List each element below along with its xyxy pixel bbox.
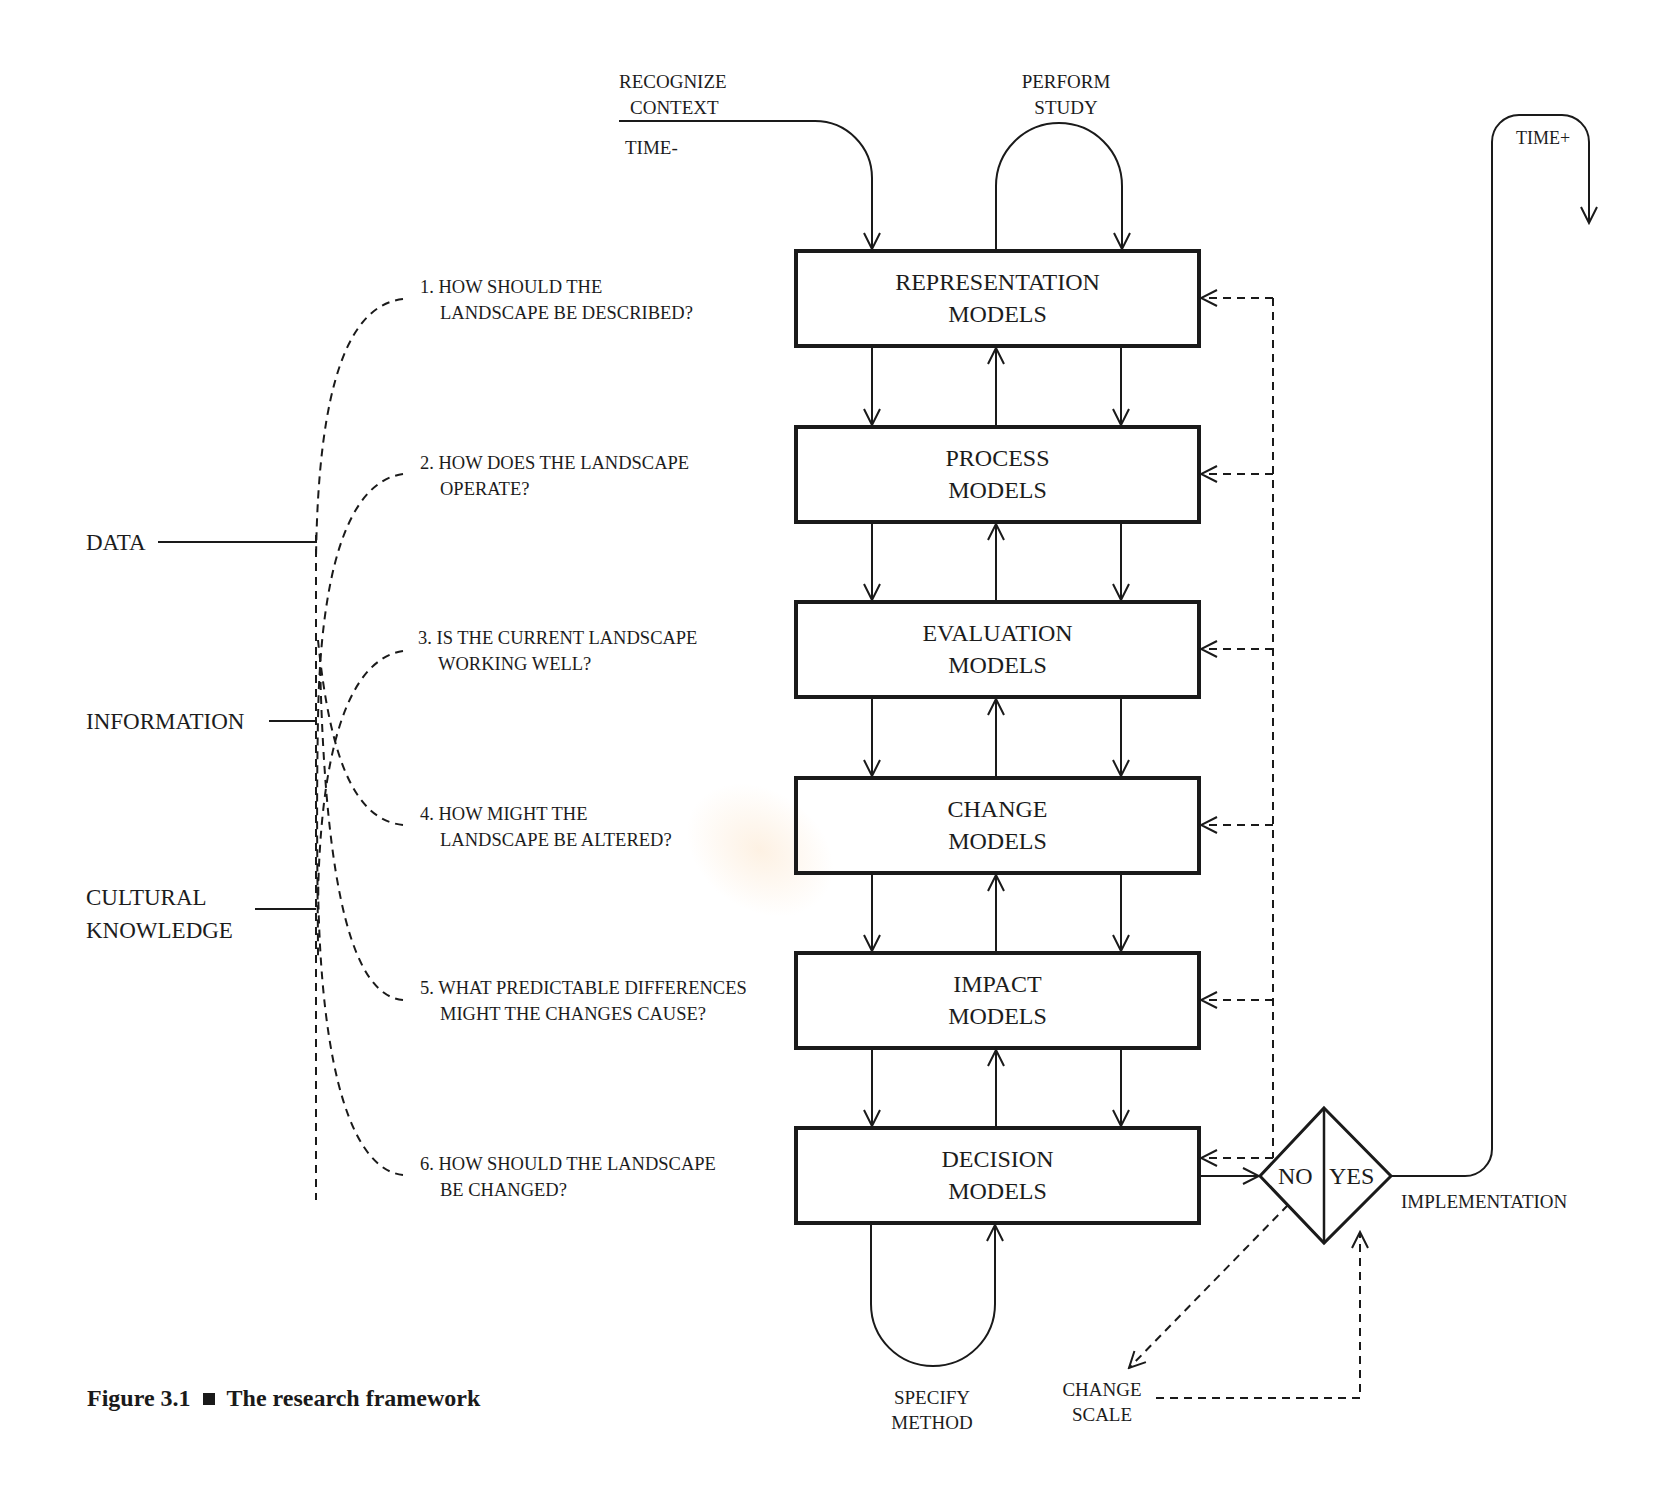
perform-study-loop xyxy=(996,123,1122,249)
figure-caption: Figure 3.1The research framework xyxy=(87,1385,480,1412)
question-line: MIGHT THE CHANGES CAUSE? xyxy=(420,1001,747,1027)
study-label: STUDY xyxy=(1034,98,1097,117)
process-models-label: PROCESS MODELS xyxy=(796,442,1199,506)
question-line: WORKING WELL? xyxy=(418,651,697,677)
question-line: 6. HOW SHOULD THE LANDSCAPE xyxy=(420,1154,716,1174)
question-2: 2. HOW DOES THE LANDSCAPE OPERATE? xyxy=(420,450,689,502)
square-bullet-icon xyxy=(203,1393,215,1405)
model-title: EVALUATION xyxy=(796,617,1199,649)
figure-number: Figure 3.1 xyxy=(87,1385,191,1411)
question-line: 4. HOW MIGHT THE xyxy=(420,804,588,824)
question-line: 3. IS THE CURRENT LANDSCAPE xyxy=(418,628,697,648)
change-models-label: CHANGE MODELS xyxy=(796,793,1199,857)
model-subtitle: MODELS xyxy=(796,298,1199,330)
change-label: CHANGE xyxy=(1062,1380,1141,1399)
specify-method-loop xyxy=(871,1225,995,1366)
feedback-dashed-lines xyxy=(1201,298,1273,1158)
specify-label: SPECIFY xyxy=(894,1388,970,1407)
question-1: 1. HOW SHOULD THE LANDSCAPE BE DESCRIBED… xyxy=(420,274,693,326)
implementation-time-plus-path xyxy=(1391,115,1589,1176)
decision-models-label: DECISION MODELS xyxy=(796,1143,1199,1207)
question-line: 5. WHAT PREDICTABLE DIFFERENCES xyxy=(420,978,747,998)
model-title: PROCESS xyxy=(796,442,1199,474)
no-option[interactable]: NO xyxy=(1278,1164,1313,1188)
question-line: 1. HOW SHOULD THE xyxy=(420,277,602,297)
question-line: BE CHANGED? xyxy=(420,1177,716,1203)
impact-models-label: IMPACT MODELS xyxy=(796,968,1199,1032)
perform-label: PERFORM xyxy=(1022,72,1111,91)
knowledge-label: KNOWLEDGE xyxy=(86,919,233,942)
question-line: LANDSCAPE BE ALTERED? xyxy=(420,827,672,853)
question-5: 5. WHAT PREDICTABLE DIFFERENCES MIGHT TH… xyxy=(420,975,747,1027)
model-title: CHANGE xyxy=(796,793,1199,825)
question-curves xyxy=(316,299,403,1175)
information-label: INFORMATION xyxy=(86,710,244,733)
model-title: DECISION xyxy=(796,1143,1199,1175)
model-boxes xyxy=(796,251,1199,1223)
question-line: LANDSCAPE BE DESCRIBED? xyxy=(420,300,693,326)
model-subtitle: MODELS xyxy=(796,825,1199,857)
evaluation-models-label: EVALUATION MODELS xyxy=(796,617,1199,681)
model-subtitle: MODELS xyxy=(796,474,1199,506)
cultural-label: CULTURAL xyxy=(86,886,207,909)
change-scale-dashed xyxy=(1129,1205,1360,1398)
recognize-label: RECOGNIZE xyxy=(619,72,727,91)
model-title: REPRESENTATION xyxy=(796,266,1199,298)
question-4: 4. HOW MIGHT THE LANDSCAPE BE ALTERED? xyxy=(420,801,672,853)
scale-label: SCALE xyxy=(1072,1405,1132,1424)
time-minus-label: TIME- xyxy=(625,138,678,157)
time-plus-label: TIME+ xyxy=(1516,129,1570,147)
question-3: 3. IS THE CURRENT LANDSCAPE WORKING WELL… xyxy=(418,625,697,677)
model-subtitle: MODELS xyxy=(796,1175,1199,1207)
model-subtitle: MODELS xyxy=(796,649,1199,681)
question-line: OPERATE? xyxy=(420,476,689,502)
question-line: 2. HOW DOES THE LANDSCAPE xyxy=(420,453,689,473)
representation-models-label: REPRESENTATION MODELS xyxy=(796,266,1199,330)
framework-diagram xyxy=(0,0,1677,1493)
yes-option[interactable]: YES xyxy=(1329,1164,1374,1188)
model-subtitle: MODELS xyxy=(796,1000,1199,1032)
question-6: 6. HOW SHOULD THE LANDSCAPE BE CHANGED? xyxy=(420,1151,716,1203)
figure-title: The research framework xyxy=(227,1385,481,1411)
data-label: DATA xyxy=(86,531,146,554)
method-label: METHOD xyxy=(891,1413,972,1432)
context-label: CONTEXT xyxy=(630,98,719,117)
implementation-label: IMPLEMENTATION xyxy=(1401,1192,1567,1211)
model-title: IMPACT xyxy=(796,968,1199,1000)
